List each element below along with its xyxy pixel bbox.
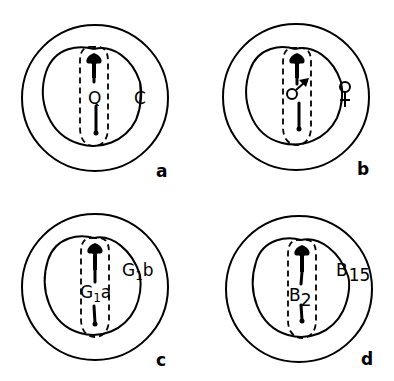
- center-label: B2: [289, 285, 312, 310]
- stem-end-dot: [94, 131, 99, 136]
- stem-end-dot: [300, 319, 305, 324]
- arrow-head-blob: [289, 53, 304, 78]
- panel-c: G1a G1b c: [22, 214, 168, 370]
- panel-a: Q C a: [22, 25, 168, 181]
- lower-stem: [94, 306, 95, 323]
- center-label: Q: [88, 88, 101, 108]
- side-label: B15: [336, 260, 370, 285]
- diagram-canvas: Q C a b G1a: [0, 0, 394, 381]
- arrow-head-blob: [86, 53, 101, 78]
- side-label: C: [134, 88, 146, 108]
- stem-end-dot: [93, 322, 98, 327]
- arrow-head-blob: [87, 243, 102, 270]
- panel-letter: d: [361, 349, 373, 369]
- center-label: G1a: [80, 282, 111, 305]
- panel-d: B2 B15 d: [226, 216, 373, 369]
- panel-letter: b: [357, 159, 369, 179]
- side-label: G1b: [122, 260, 154, 283]
- panel-letter: c: [156, 350, 166, 370]
- outer-ring: [22, 214, 168, 360]
- arrow-head-blob: [294, 245, 309, 272]
- stem-end-dot: [297, 127, 302, 132]
- panel-b: b: [223, 24, 369, 179]
- panel-letter: a: [156, 161, 167, 181]
- upper-stem: [301, 272, 302, 284]
